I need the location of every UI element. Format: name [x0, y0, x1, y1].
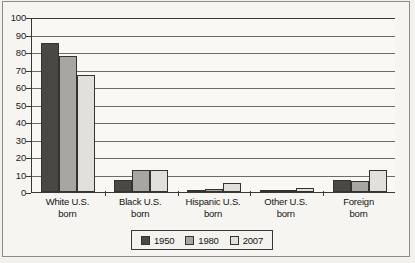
plot-area [31, 18, 395, 193]
bar-1950-other-u-s-born [260, 190, 278, 192]
chart-legend: 195019802007 [131, 230, 273, 250]
bar-group [260, 18, 314, 192]
y-tick-mark [26, 18, 31, 19]
legend-swatch-icon [141, 236, 150, 245]
legend-label: 1950 [154, 235, 174, 246]
bar-group [333, 18, 387, 192]
y-tick-label: 90 [0, 30, 26, 41]
y-tick-mark [26, 193, 31, 194]
bar-2007-other-u-s-born [296, 188, 314, 192]
y-tick-mark [26, 123, 31, 124]
bar-2007-foreign-born [369, 170, 387, 192]
y-tick-mark [26, 53, 31, 54]
legend-item-1950: 1950 [141, 235, 174, 246]
bar-group [187, 18, 241, 192]
y-tick-label: 10 [0, 170, 26, 181]
bar-1980-hispanic-u-s-born [205, 189, 223, 193]
y-tick-mark [26, 158, 31, 159]
y-tick-mark [26, 176, 31, 177]
bar-2007-white-u-s-born [77, 75, 95, 192]
bar-group [41, 18, 95, 192]
y-tick-label: 70 [0, 65, 26, 76]
bar-1950-hispanic-u-s-born [187, 190, 205, 192]
bar-2007-hispanic-u-s-born [223, 183, 241, 192]
legend-item-2007: 2007 [230, 235, 263, 246]
y-tick-label: 20 [0, 152, 26, 163]
legend-swatch-icon [185, 236, 194, 245]
bar-2007-black-u-s-born [150, 170, 168, 192]
y-tick-mark [26, 71, 31, 72]
bar-1980-white-u-s-born [59, 56, 77, 192]
y-tick-mark [26, 141, 31, 142]
chart-screenshot: 0102030405060708090100 White U.S.bornBla… [0, 0, 415, 263]
y-tick-mark [26, 106, 31, 107]
y-tick-mark [26, 88, 31, 89]
y-tick-label: 80 [0, 47, 26, 58]
bar-1980-other-u-s-born [278, 190, 296, 192]
y-tick-mark [26, 36, 31, 37]
bar-1950-foreign-born [333, 180, 351, 192]
legend-label: 2007 [243, 235, 263, 246]
bar-1950-black-u-s-born [114, 180, 132, 192]
y-tick-label: 50 [0, 100, 26, 111]
y-tick-label: 100 [0, 12, 26, 23]
bar-1950-white-u-s-born [41, 43, 59, 192]
legend-swatch-icon [230, 236, 239, 245]
y-tick-label: 60 [0, 82, 26, 93]
legend-label: 1980 [198, 235, 218, 246]
bar-1980-black-u-s-born [132, 170, 150, 192]
y-tick-label: 30 [0, 135, 26, 146]
legend-item-1980: 1980 [185, 235, 218, 246]
bar-1980-foreign-born [351, 181, 369, 192]
y-tick-label: 40 [0, 117, 26, 128]
x-axis-label: Foreignborn [314, 196, 404, 219]
bar-group [114, 18, 168, 192]
